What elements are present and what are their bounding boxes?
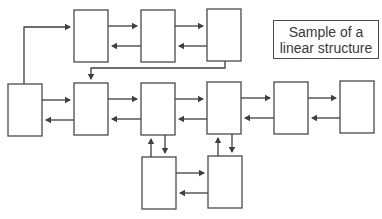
node-m1 <box>74 83 108 135</box>
node-m5 <box>340 81 374 133</box>
node-b2 <box>208 156 242 208</box>
title-line-2: linear structure <box>280 40 373 56</box>
diagram-title-box: Sample of a linear structure <box>273 20 379 59</box>
node-t1 <box>74 10 108 62</box>
node-m3 <box>207 82 241 134</box>
node-t2 <box>141 10 175 62</box>
node-m4 <box>274 82 308 134</box>
title-line-1: Sample of a <box>289 24 364 40</box>
arrow-l-to-t1 <box>24 27 70 84</box>
arrow-t3-to-m1 <box>91 61 225 79</box>
node-m2 <box>141 83 175 135</box>
node-b1 <box>142 157 176 209</box>
node-t3 <box>207 9 241 61</box>
node-l <box>8 84 42 136</box>
